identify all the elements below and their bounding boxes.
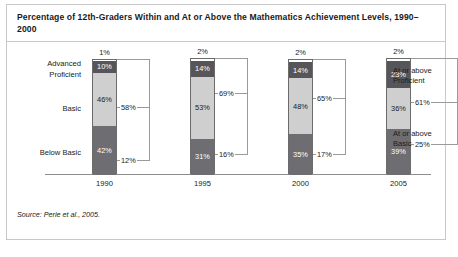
side-label-basic-line2: Basic bbox=[393, 139, 412, 148]
advanced-value-2005: 2% bbox=[386, 47, 411, 56]
x-tick-1990: 1990 bbox=[92, 179, 117, 188]
segment-below-basic-2000: 35% bbox=[289, 134, 312, 175]
side-label-basic-line1: At or above bbox=[393, 129, 432, 138]
side-label-at-or-above-basic: At or above Basic bbox=[393, 129, 432, 149]
cumulative-label-at-or-above-proficient-2000: 17% bbox=[316, 150, 333, 159]
cumulative-label-at-or-above-basic-2005: 61% bbox=[414, 98, 431, 107]
segment-basic-2005: 36% bbox=[387, 88, 410, 130]
page-title: Percentage of 12th-Graders Within and At… bbox=[17, 12, 435, 36]
bracket-at-or-above-basic-2000 bbox=[313, 59, 346, 100]
segment-proficient-1995: 14% bbox=[191, 61, 214, 77]
bracket-at-or-above-basic-1990 bbox=[117, 59, 150, 108]
segment-proficient-1990: 10% bbox=[93, 61, 116, 73]
category-label-basic: Basic bbox=[7, 104, 81, 113]
category-label-advanced: Advanced bbox=[7, 59, 81, 68]
advanced-value-1990: 1% bbox=[92, 48, 117, 57]
side-label-proficient-line2: Proficient bbox=[393, 76, 425, 85]
cumulative-label-at-or-above-basic-2000: 65% bbox=[316, 94, 333, 103]
segment-below-basic-1995: 31% bbox=[191, 139, 214, 175]
segment-basic-2000: 48% bbox=[289, 78, 312, 134]
category-label-below-basic: Below Basic bbox=[7, 148, 81, 157]
bar-2000[interactable]: 14%48%35% bbox=[288, 59, 313, 174]
cumulative-label-at-or-above-basic-1990: 58% bbox=[120, 103, 137, 112]
segment-basic-1990: 46% bbox=[93, 73, 116, 126]
bar-1990[interactable]: 10%46%42% bbox=[92, 59, 117, 174]
segment-below-basic-1990: 42% bbox=[93, 126, 116, 175]
figure-panel: Percentage of 12th-Graders Within and At… bbox=[6, 4, 446, 240]
source-note: Source: Perie et al., 2005. bbox=[17, 210, 100, 219]
bar-1995[interactable]: 14%53%31% bbox=[190, 58, 215, 174]
cumulative-label-at-or-above-proficient-1995: 16% bbox=[218, 150, 235, 159]
x-tick-1995: 1995 bbox=[190, 179, 215, 188]
cumulative-label-at-or-above-basic-1995: 69% bbox=[218, 89, 235, 98]
side-label-proficient-line1: At or above bbox=[393, 66, 432, 75]
side-label-at-or-above-proficient: At or above Proficient bbox=[393, 66, 432, 86]
category-label-proficient: Proficient bbox=[7, 70, 81, 79]
segment-basic-1995: 53% bbox=[191, 77, 214, 138]
cumulative-label-at-or-above-proficient-1990: 12% bbox=[120, 156, 137, 165]
chart-plot-area: Advanced Proficient Basic Below Basic 10… bbox=[7, 42, 445, 205]
x-tick-2005: 2005 bbox=[386, 179, 411, 188]
segment-proficient-2000: 14% bbox=[289, 62, 312, 78]
title-block: Percentage of 12th-Graders Within and At… bbox=[7, 5, 445, 42]
advanced-value-1995: 2% bbox=[190, 47, 215, 56]
x-tick-2000: 2000 bbox=[288, 179, 313, 188]
advanced-value-2000: 2% bbox=[288, 48, 313, 57]
